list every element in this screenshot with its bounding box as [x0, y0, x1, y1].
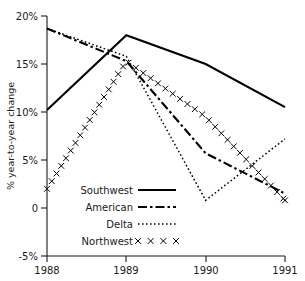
x-tick-label: 1991 [272, 265, 297, 276]
x-axis-ticks [47, 256, 285, 262]
y-axis-ticks [41, 16, 47, 256]
series-marker-x [192, 106, 198, 112]
series-marker-x [160, 238, 166, 244]
series-marker-x [177, 96, 183, 102]
series-marker-x [282, 197, 288, 203]
series-marker-x [170, 91, 176, 97]
series-northwest [44, 60, 288, 203]
series-marker-x [111, 79, 117, 85]
x-axis-tick-labels: 1988 1989 1990 1991 [34, 265, 297, 276]
chart-axes [47, 16, 285, 256]
series-marker-x [82, 125, 88, 131]
series-marker-x [120, 64, 126, 70]
series-american [47, 28, 285, 193]
series-marker-x [243, 157, 249, 163]
series-marker-x [199, 111, 205, 117]
x-tick-label: 1989 [113, 265, 138, 276]
y-tick-label: 20% [16, 11, 38, 22]
series-marker-x [63, 155, 69, 161]
series-marker-x [237, 150, 243, 156]
series-marker-x [54, 171, 60, 177]
y-tick-label: 0 [32, 203, 38, 214]
series-marker-x [218, 130, 224, 136]
y-tick-label: 10% [16, 107, 38, 118]
y-tick-label: 5% [22, 155, 38, 166]
series-marker-x [58, 163, 64, 169]
series-marker-x [115, 71, 121, 77]
series-marker-x [73, 140, 79, 146]
y-tick-label: -5% [19, 251, 38, 262]
series-marker-x [140, 70, 146, 76]
legend-item-label: Northwest [82, 236, 134, 247]
series-marker-x [206, 117, 212, 123]
series-marker-x [162, 86, 168, 92]
series-marker-x [212, 124, 218, 130]
legend-item-label: Delta [106, 219, 133, 230]
line-chart: 20% 15% 10% 5% 0 -5% 1988 1989 1990 1991… [0, 0, 305, 281]
series-marker-x [77, 132, 83, 138]
series-marker-x [87, 117, 93, 123]
series-delta [47, 28, 285, 200]
series-marker-x [101, 94, 107, 100]
series-marker-x [148, 238, 154, 244]
legend-item-american[interactable]: American [85, 202, 176, 213]
series-marker-x [231, 143, 237, 149]
series-marker-x [225, 137, 231, 143]
legend-item-northwest[interactable]: Northwest [82, 236, 179, 247]
series-marker-x [96, 102, 102, 108]
series-marker-x [262, 176, 268, 182]
series-marker-x [68, 148, 74, 154]
series-marker-x [92, 109, 98, 115]
series-line [47, 28, 285, 200]
legend-item-label: Southwest [80, 185, 133, 196]
series-marker-x [155, 80, 161, 86]
legend-item-southwest[interactable]: Southwest [80, 185, 176, 196]
series-marker-x [148, 75, 154, 81]
legend-item-delta[interactable]: Delta [106, 219, 176, 230]
series-marker-x [256, 170, 262, 176]
legend-item-label: American [85, 202, 133, 213]
series-marker-x [185, 101, 191, 107]
series-marker-x [133, 65, 139, 71]
series-marker-x [173, 238, 179, 244]
chart-container: 20% 15% 10% 5% 0 -5% 1988 1989 1990 1991… [0, 0, 305, 281]
series-southwest [47, 35, 285, 110]
y-axis-title: % year-to-year change [5, 82, 16, 190]
y-tick-label: 15% [16, 59, 38, 70]
y-axis-tick-labels: 20% 15% 10% 5% 0 -5% [16, 11, 38, 262]
series-line [47, 35, 285, 110]
chart-legend: SouthwestAmericanDeltaNorthwest [80, 185, 178, 247]
series-marker-x [49, 178, 55, 184]
series-marker-x [106, 87, 112, 93]
x-tick-label: 1990 [193, 265, 218, 276]
series-marker-x [135, 238, 141, 244]
x-tick-label: 1988 [34, 265, 59, 276]
chart-series-layer [44, 28, 288, 203]
series-line [47, 28, 285, 193]
